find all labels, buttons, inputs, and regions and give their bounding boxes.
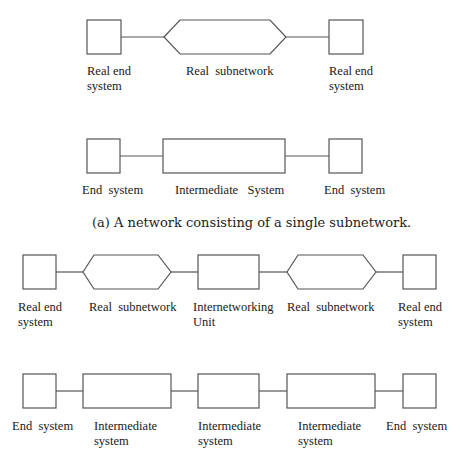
real-subnetwork-hexagon-1 bbox=[83, 255, 171, 289]
end-system-box-right bbox=[329, 139, 362, 173]
label-end-system-left: End system bbox=[12, 419, 73, 434]
real-end-system-box-right bbox=[329, 20, 363, 54]
intermediate-system-box-1 bbox=[83, 374, 171, 408]
end-system-box-right bbox=[403, 374, 436, 408]
label-real-end-system-left: Real end system bbox=[18, 300, 62, 330]
intermediate-system-box bbox=[163, 139, 285, 173]
real-end-system-box-right bbox=[403, 255, 436, 289]
internetworking-unit-box bbox=[198, 255, 259, 289]
label-intermediate-system: Intermediate System bbox=[175, 183, 284, 198]
end-system-box-left bbox=[23, 374, 56, 408]
label-real-end-system-right: Real end system bbox=[329, 64, 373, 94]
label-end-system-left: End system bbox=[82, 183, 143, 198]
intermediate-system-box-3 bbox=[287, 374, 375, 408]
label-end-system-right: End system bbox=[386, 419, 447, 434]
label-real-end-system-right: Real end system bbox=[398, 300, 442, 330]
label-internetworking-unit: Internetworking Unit bbox=[193, 300, 274, 330]
end-system-box-left bbox=[87, 139, 120, 173]
label-intermediate-system-2: Intermediate system bbox=[198, 419, 261, 449]
label-real-subnetwork-1: Real subnetwork bbox=[89, 300, 176, 315]
label-intermediate-system-3: Intermediate system bbox=[298, 419, 361, 449]
real-subnetwork-hexagon bbox=[164, 20, 286, 54]
label-real-subnetwork-2: Real subnetwork bbox=[287, 300, 374, 315]
label-real-end-system-left: Real end system bbox=[87, 64, 131, 94]
label-real-subnetwork: Real subnetwork bbox=[186, 64, 273, 79]
intermediate-system-box-2 bbox=[198, 374, 259, 408]
real-end-system-box-left bbox=[87, 20, 121, 54]
real-subnetwork-hexagon-2 bbox=[287, 255, 376, 289]
real-end-system-box-left bbox=[23, 255, 56, 289]
figure-a-caption: (a) A network consisting of a single sub… bbox=[92, 215, 411, 230]
label-intermediate-system-1: Intermediate system bbox=[94, 419, 157, 449]
label-end-system-right: End system bbox=[324, 183, 385, 198]
